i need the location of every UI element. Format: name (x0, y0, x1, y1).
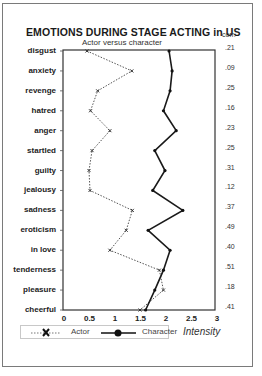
legend-actor-label: Actor (71, 327, 90, 336)
actor-markers (85, 50, 165, 312)
legend: Actor Character (20, 325, 169, 339)
plot-border (63, 50, 215, 310)
character-markers (144, 49, 184, 311)
x-axis-label: Intensity (183, 326, 220, 337)
plot-area (0, 0, 262, 376)
legend-character-label: Character (142, 327, 177, 336)
dot-marker-icon (115, 330, 122, 337)
